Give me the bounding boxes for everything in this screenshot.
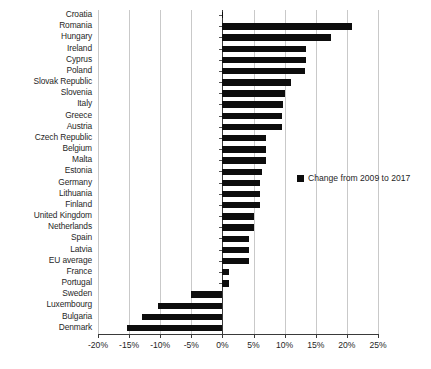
bar-row bbox=[98, 233, 378, 244]
bar bbox=[222, 90, 284, 96]
x-axis-tick bbox=[347, 334, 348, 338]
x-axis-tick bbox=[378, 334, 379, 338]
bar-row bbox=[98, 211, 378, 222]
x-axis-tick bbox=[222, 334, 223, 338]
category-label: Lithuania bbox=[0, 188, 92, 199]
x-axis-tick bbox=[254, 334, 255, 338]
category-label: Belgium bbox=[0, 143, 92, 154]
x-axis-tick bbox=[191, 334, 192, 338]
x-axis-tick-label: 0% bbox=[216, 339, 228, 351]
bar bbox=[222, 124, 281, 130]
bar bbox=[191, 291, 222, 297]
category-label: France bbox=[0, 266, 92, 277]
x-axis-tick-label: 15% bbox=[307, 339, 324, 351]
bar bbox=[222, 236, 249, 242]
bar-row bbox=[98, 256, 378, 267]
bar-rows bbox=[98, 10, 378, 334]
bar-row bbox=[98, 289, 378, 300]
bar-row bbox=[98, 189, 378, 200]
bar bbox=[222, 113, 281, 119]
bar bbox=[222, 202, 259, 208]
bar-row bbox=[98, 111, 378, 122]
category-label: Netherlands bbox=[0, 221, 92, 232]
bar bbox=[142, 314, 223, 320]
x-axis-tick-label: -10% bbox=[150, 339, 170, 351]
bar bbox=[222, 169, 261, 175]
bar-row bbox=[98, 245, 378, 256]
bar-row bbox=[98, 44, 378, 55]
category-label: United Kingdom bbox=[0, 210, 92, 221]
bar bbox=[222, 258, 249, 264]
category-label: Bulgaria bbox=[0, 311, 92, 322]
category-label: Denmark bbox=[0, 322, 92, 333]
bar bbox=[222, 34, 331, 40]
category-label: Finland bbox=[0, 199, 92, 210]
x-axis-tick bbox=[98, 334, 99, 338]
category-label: Slovenia bbox=[0, 87, 92, 98]
legend-swatch-icon bbox=[297, 175, 304, 182]
bar-row bbox=[98, 77, 378, 88]
bar bbox=[222, 213, 253, 219]
category-label: Ireland bbox=[0, 43, 92, 54]
bar bbox=[222, 57, 306, 63]
bar-row bbox=[98, 133, 378, 144]
bar bbox=[222, 247, 249, 253]
bar bbox=[222, 191, 259, 197]
bar bbox=[222, 269, 228, 275]
bar bbox=[222, 280, 228, 286]
x-axis-tick-label: 25% bbox=[369, 339, 386, 351]
category-label: EU average bbox=[0, 255, 92, 266]
bar bbox=[222, 79, 290, 85]
legend-label: Change from 2009 to 2017 bbox=[308, 173, 410, 183]
category-axis-labels: CroatiaRomaniaHungaryIrelandCyprusPoland… bbox=[0, 10, 92, 334]
category-label: Romania bbox=[0, 20, 92, 31]
bar bbox=[222, 157, 266, 163]
category-label: Cyprus bbox=[0, 54, 92, 65]
bar-row bbox=[98, 122, 378, 133]
bar-row bbox=[98, 21, 378, 32]
bar bbox=[222, 180, 259, 186]
category-label: Slovak Republic bbox=[0, 76, 92, 87]
x-axis-tick-label: 10% bbox=[276, 339, 293, 351]
category-label: Hungary bbox=[0, 31, 92, 42]
category-label: Austria bbox=[0, 121, 92, 132]
bar bbox=[222, 12, 223, 18]
bar-row bbox=[98, 88, 378, 99]
category-label: Italy bbox=[0, 98, 92, 109]
bar bbox=[127, 325, 222, 331]
bar bbox=[222, 224, 253, 230]
gridline bbox=[378, 10, 379, 334]
category-label: Czech Republic bbox=[0, 132, 92, 143]
bar-row bbox=[98, 323, 378, 334]
bar-row bbox=[98, 312, 378, 323]
bar-row bbox=[98, 155, 378, 166]
category-label: Malta bbox=[0, 154, 92, 165]
bar bbox=[222, 135, 266, 141]
x-axis-tick-label: -20% bbox=[88, 339, 108, 351]
bar bbox=[222, 101, 283, 107]
bar bbox=[222, 146, 266, 152]
category-label: Latvia bbox=[0, 244, 92, 255]
bar-row bbox=[98, 10, 378, 21]
bar-row bbox=[98, 66, 378, 77]
bar bbox=[222, 46, 306, 52]
bar-row bbox=[98, 278, 378, 289]
x-axis-tick bbox=[285, 334, 286, 338]
bar-row bbox=[98, 32, 378, 43]
bar-row bbox=[98, 267, 378, 278]
category-label: Croatia bbox=[0, 9, 92, 20]
bar bbox=[222, 23, 351, 29]
bar-row bbox=[98, 200, 378, 211]
category-label: Greece bbox=[0, 110, 92, 121]
category-label: Luxembourg bbox=[0, 299, 92, 310]
plot-area bbox=[98, 10, 378, 334]
x-axis-tick-label: 5% bbox=[247, 339, 259, 351]
x-axis-tick bbox=[160, 334, 161, 338]
bar-row bbox=[98, 300, 378, 311]
x-axis-tick-labels: -20%-15%-10%-5%0%5%10%15%20%25% bbox=[98, 339, 379, 353]
x-axis-ticks bbox=[98, 334, 379, 338]
bar bbox=[222, 68, 304, 74]
x-axis-tick-label: -5% bbox=[184, 339, 199, 351]
category-label: Portugal bbox=[0, 277, 92, 288]
category-label: Spain bbox=[0, 232, 92, 243]
